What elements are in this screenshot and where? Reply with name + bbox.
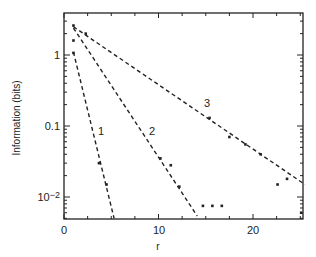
y-axis-label: Information (bits) — [11, 80, 22, 155]
data-point — [259, 153, 262, 156]
data-point — [208, 117, 211, 120]
fit-line-3 — [73, 27, 305, 185]
curve-label-2: 2 — [149, 125, 155, 137]
data-point — [221, 205, 224, 208]
y-tick-1: 1 — [54, 49, 60, 61]
curve-label-1: 1 — [98, 125, 104, 137]
x-tick-20: 20 — [247, 224, 259, 236]
data-point — [72, 52, 75, 55]
fit-lines — [73, 27, 305, 219]
x-axis-label: r — [156, 241, 160, 252]
data-points — [72, 24, 302, 214]
y-tick-0.1: 0.1 — [45, 120, 60, 132]
y-tick-0.01: 10−2 — [37, 190, 60, 203]
data-point — [228, 136, 231, 139]
fit-line-1 — [73, 52, 114, 218]
data-point — [72, 39, 75, 42]
x-tick-0: 0 — [61, 224, 67, 236]
data-point — [286, 178, 289, 181]
data-point — [98, 162, 101, 165]
data-point — [244, 143, 247, 146]
data-point — [84, 32, 87, 35]
data-point — [300, 211, 303, 214]
data-point — [211, 205, 214, 208]
data-point — [202, 205, 205, 208]
log-scale-chart: 0 10 20 1 0.1 10−2 r Information (bits) … — [0, 0, 316, 257]
data-point — [169, 164, 172, 167]
data-point — [72, 24, 75, 27]
data-point — [105, 183, 108, 186]
data-point — [159, 157, 162, 160]
curve-label-3: 3 — [204, 97, 210, 109]
data-point — [178, 185, 181, 188]
x-tick-10: 10 — [153, 224, 165, 236]
data-point — [276, 183, 279, 186]
